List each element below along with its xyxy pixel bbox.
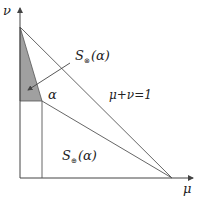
lower-region-label: S ⊕ (α) <box>62 148 97 165</box>
upper-region-label: S ⊗ (α) <box>75 48 110 65</box>
alpha-label: α <box>48 87 57 102</box>
svg-text:(α): (α) <box>78 148 97 163</box>
line-alpha-to-one <box>42 101 172 178</box>
svg-text:⊕: ⊕ <box>71 157 77 165</box>
svg-text:⊗: ⊗ <box>84 57 90 65</box>
svg-text:(α): (α) <box>91 48 110 63</box>
diagram-canvas: ν μ S ⊗ (α) α μ+ν=1 S ⊕ (α) <box>0 0 200 199</box>
svg-text:S: S <box>75 48 84 63</box>
y-axis-label: ν <box>3 3 11 18</box>
line-equation-label: μ+ν=1 <box>109 88 152 102</box>
x-axis-label: μ <box>183 181 191 196</box>
svg-text:S: S <box>62 148 71 163</box>
